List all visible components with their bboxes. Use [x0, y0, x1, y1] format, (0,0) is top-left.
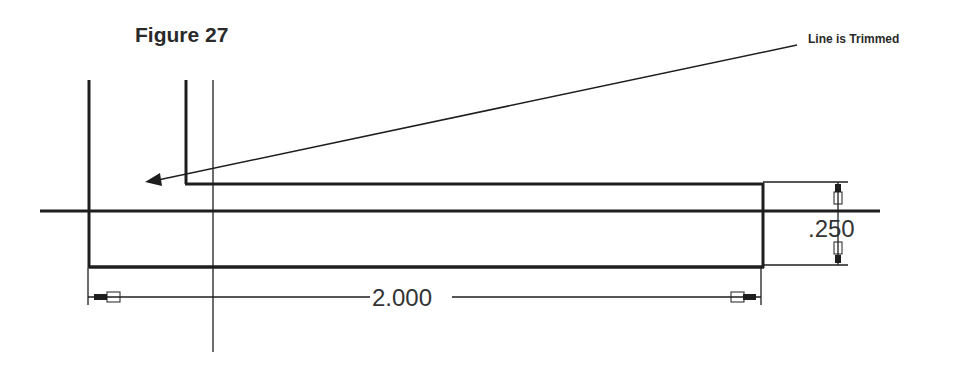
length-arrow-right-icon	[743, 294, 756, 300]
height-arrow-top-icon	[835, 184, 841, 192]
height-arrow-bottom-icon	[835, 255, 841, 263]
cad-drawing: .250 2.000	[0, 0, 978, 374]
leader-line	[158, 45, 797, 180]
length-dimension-text: 2.000	[372, 284, 432, 311]
height-dimension-text: .250	[808, 215, 855, 242]
length-arrow-left-icon	[94, 294, 107, 300]
leader-arrowhead-icon	[145, 173, 162, 186]
